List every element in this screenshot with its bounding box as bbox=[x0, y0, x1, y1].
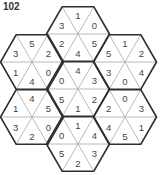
hex-lower-right-triangle-upper-left-number: 2 bbox=[106, 103, 111, 114]
hex-upper-left-triangle-lower-right-number: 0 bbox=[46, 67, 51, 78]
hex-upper-right-triangle-lower-left-number: 3 bbox=[106, 67, 111, 78]
hex-lower-right-triangle-lower-left-number: 4 bbox=[106, 122, 111, 133]
hex-center-triangle-lower-right-number: 2 bbox=[92, 94, 97, 105]
hex-top-triangle-top-number: 1 bbox=[75, 10, 80, 21]
hex-upper-left-triangle-lower-left-number: 1 bbox=[13, 67, 18, 78]
hex-center-triangle-top-number: 4 bbox=[75, 65, 80, 76]
hex-upper-left-triangle-bottom-number: 4 bbox=[29, 76, 34, 87]
hex-top-triangle-bottom-number: 4 bbox=[75, 48, 80, 59]
hex-bottom-triangle-upper-left-number: 0 bbox=[59, 130, 64, 141]
hex-lower-left-triangle-lower-right-number: 0 bbox=[46, 122, 51, 133]
hex-top-triangle-lower-left-number: 2 bbox=[59, 38, 64, 49]
hex-center-triangle-upper-left-number: 0 bbox=[59, 75, 64, 86]
hex-lower-left-triangle-top-number: 4 bbox=[29, 93, 34, 104]
hex-center-triangle-upper-right-number: 3 bbox=[92, 75, 97, 86]
hex-bottom-triangle-top-number: 1 bbox=[75, 120, 80, 131]
hex-upper-right-triangle-upper-right-number: 2 bbox=[139, 48, 144, 59]
hex-bottom-triangle-lower-left-number: 5 bbox=[59, 148, 64, 159]
hex-upper-right-triangle-lower-right-number: 4 bbox=[139, 67, 144, 78]
hex-bottom-triangle-bottom-number: 2 bbox=[75, 158, 80, 169]
hex-lower-right-triangle-top-number: 0 bbox=[122, 93, 127, 104]
hex-center-triangle-bottom-number: 1 bbox=[75, 103, 80, 114]
hex-upper-left-triangle-upper-left-number: 3 bbox=[13, 48, 18, 59]
hex-upper-right-triangle-bottom-number: 0 bbox=[122, 76, 127, 87]
hex-top-triangle-lower-right-number: 5 bbox=[92, 38, 97, 49]
hex-upper-right-triangle-upper-left-number: 5 bbox=[106, 48, 111, 59]
hex-lower-left-triangle-upper-right-number: 5 bbox=[46, 103, 51, 114]
hex-bottom-triangle-upper-right-number: 4 bbox=[92, 130, 97, 141]
hex-top-triangle-upper-left-number: 3 bbox=[59, 20, 64, 31]
hex-lower-left-triangle-lower-left-number: 3 bbox=[13, 122, 18, 133]
hex-center-triangle-lower-left-number: 5 bbox=[59, 94, 64, 105]
hex-upper-left-triangle-upper-right-number: 2 bbox=[46, 48, 51, 59]
hex-lower-left-triangle-bottom-number: 2 bbox=[29, 131, 34, 142]
hex-lower-left-triangle-upper-left-number: 1 bbox=[13, 103, 18, 114]
hexagon-puzzle-board: 1054235204131240354321504502310315421432… bbox=[0, 0, 162, 175]
hex-upper-right-triangle-top-number: 1 bbox=[122, 38, 127, 49]
hex-lower-right-triangle-upper-right-number: 3 bbox=[139, 103, 144, 114]
hex-upper-left-triangle-top-number: 5 bbox=[29, 38, 34, 49]
hex-top-triangle-upper-right-number: 0 bbox=[92, 20, 97, 31]
hex-lower-right-triangle-bottom-number: 5 bbox=[122, 131, 127, 142]
hex-lower-right-triangle-lower-right-number: 1 bbox=[139, 122, 144, 133]
hex-bottom-triangle-lower-right-number: 3 bbox=[92, 148, 97, 159]
